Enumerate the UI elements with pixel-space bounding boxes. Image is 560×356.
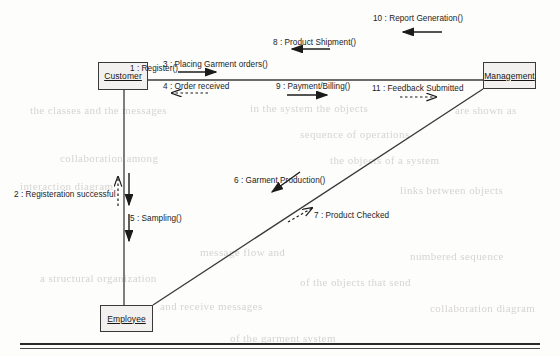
message-label-5: 5 : Sampling() [130, 214, 182, 223]
message-label-8: 8 : Product Shipment() [273, 38, 356, 47]
message-label-9: 9 : Payment/Billing() [276, 82, 350, 91]
message-label-6: 6 : Garment Production() [234, 176, 325, 185]
page-rule-top [20, 343, 540, 345]
message-label-11: 11 : Feedback Submitted [372, 84, 464, 93]
message-label-10: 10 : Report Generation() [373, 14, 463, 23]
message-label-4: 4 : Order received [163, 82, 229, 91]
actor-management[interactable]: Management [483, 62, 536, 89]
actor-employee[interactable]: Employee [100, 305, 153, 332]
actor-management-label: Management [484, 71, 535, 81]
page-rule-bottom [20, 348, 540, 349]
actor-employee-label: Employee [107, 314, 146, 324]
message-label-7: 7 : Product Checked [314, 211, 389, 220]
diagram-canvas: the classes and the messagesin the syste… [0, 0, 560, 356]
link-employee-management [153, 89, 483, 305]
message-label-3: 3 : Placing Garment orders() [163, 60, 268, 69]
message-label-2: 2 : Registeration successful [14, 190, 116, 199]
